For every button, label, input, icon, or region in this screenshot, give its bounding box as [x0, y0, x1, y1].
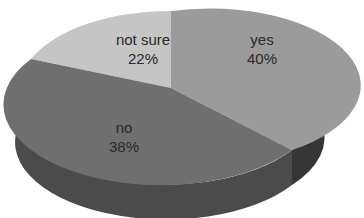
- label-no: no 38%: [99, 118, 149, 156]
- label-yes-value: 40%: [237, 49, 287, 68]
- label-yes: yes 40%: [237, 30, 287, 68]
- label-no-value: 38%: [99, 137, 149, 156]
- pie-chart: not sure 22% yes 40% no 38%: [0, 0, 364, 218]
- pie-chart-graphic: [0, 0, 364, 218]
- label-not-sure-value: 22%: [108, 49, 178, 68]
- label-not-sure-name: not sure: [108, 30, 178, 49]
- label-not-sure: not sure 22%: [108, 30, 178, 68]
- label-yes-name: yes: [237, 30, 287, 49]
- label-no-name: no: [99, 118, 149, 137]
